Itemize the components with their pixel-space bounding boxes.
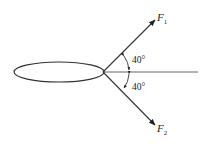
force-f1-label: F1 xyxy=(156,11,168,26)
force-f1-subscript: 1 xyxy=(164,18,168,26)
angle-arc-lower xyxy=(124,74,129,88)
force-f2-label: F2 xyxy=(156,122,168,137)
angle-arc-upper xyxy=(124,56,129,70)
object-ellipse xyxy=(14,62,104,82)
angle-label-upper: 40° xyxy=(132,55,146,65)
force-diagram: 40° 40° F1 F2 xyxy=(0,0,210,144)
force-f2-subscript: 2 xyxy=(164,129,168,137)
force-f2-arrow xyxy=(103,72,155,125)
angle-label-lower: 40° xyxy=(132,82,146,92)
force-f1-arrow xyxy=(103,20,155,72)
